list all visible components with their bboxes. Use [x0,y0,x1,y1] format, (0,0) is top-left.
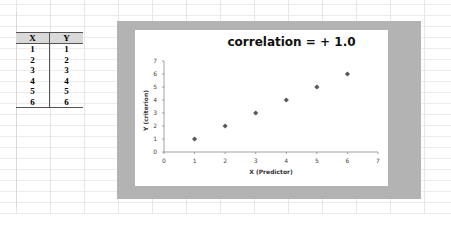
data-point-marker[interactable] [345,71,350,76]
cell-y[interactable]: 5 [50,86,84,97]
x-tick-label: 7 [376,157,380,164]
x-tick-label: 3 [254,157,258,164]
data-point-marker[interactable] [253,110,258,115]
x-tick-label: 0 [162,157,166,164]
y-tick-label: 7 [153,57,157,64]
cell-y[interactable]: 3 [50,65,84,76]
x-tick-label: 6 [346,157,350,164]
plot-area[interactable]: 0123456701234567X (Predictor)Y (criterio… [135,30,388,186]
y-tick-label: 0 [153,148,157,155]
cell-y[interactable]: 1 [50,44,84,55]
cell-x[interactable]: 2 [16,55,50,66]
y-tick-label: 6 [153,70,157,77]
cell-y[interactable]: 6 [50,97,84,108]
x-tick-label: 1 [193,157,197,164]
y-tick-label: 5 [153,83,157,90]
y-tick-label: 1 [153,135,157,142]
cell-y[interactable]: 2 [50,55,84,66]
chart-area[interactable]: correlation = + 1.0 0123456701234567X (P… [135,30,388,186]
x-axis-title[interactable]: X (Predictor) [249,168,293,175]
data-point-marker[interactable] [192,136,197,141]
x-tick-label: 4 [284,157,288,164]
cell-x[interactable]: 4 [16,76,50,87]
table-row: 6 6 [16,97,83,108]
table-row: 2 2 [16,55,83,66]
chart-object[interactable]: correlation = + 1.0 0123456701234567X (P… [117,21,421,199]
y-tick-label: 2 [153,122,157,129]
cell-y[interactable]: 4 [50,76,84,87]
y-axis-title[interactable]: Y (criterion) [142,90,149,132]
y-tick-label: 4 [153,96,157,103]
header-y[interactable]: Y [50,33,84,44]
y-tick-label: 3 [153,109,157,116]
table-row: 5 5 [16,86,83,97]
data-point-marker[interactable] [284,97,289,102]
table-row: 4 4 [16,76,83,87]
data-point-marker[interactable] [314,84,319,89]
cell-x[interactable]: 3 [16,65,50,76]
data-table: X Y 1 1 2 2 3 3 4 4 5 5 6 6 [16,32,83,108]
cell-x[interactable]: 5 [16,86,50,97]
table-row: 3 3 [16,65,83,76]
cell-x[interactable]: 6 [16,97,50,108]
header-x[interactable]: X [16,33,50,44]
data-series[interactable] [192,71,350,141]
cell-x[interactable]: 1 [16,44,50,55]
x-tick-label: 5 [315,157,319,164]
data-point-marker[interactable] [223,123,228,128]
x-tick-label: 2 [223,157,227,164]
table-row: 1 1 [16,44,83,55]
